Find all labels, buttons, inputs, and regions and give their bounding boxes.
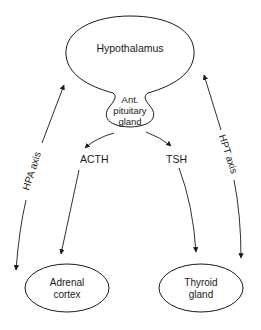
thyroid-label-line1: Thyroid [184, 277, 217, 288]
arrow-pituitary-to-tsh [146, 132, 171, 146]
adrenal-label-line1: Adrenal [50, 277, 84, 288]
hpa-axis-label: HPA axis [20, 150, 43, 191]
adrenal-label-line2: cortex [53, 289, 80, 300]
hypothalamus-label: Hypothalamus [96, 42, 163, 54]
acth-label: ACTH [80, 153, 109, 165]
thyroid-gland-node [159, 264, 243, 312]
hpt-axis-line-upper [204, 75, 221, 130]
pituitary-label-line1: Ant. [122, 94, 139, 105]
pituitary-label-line2: pituitary [113, 105, 147, 116]
hpa-axis-line-lower [16, 200, 26, 270]
tsh-label: TSH [166, 153, 187, 165]
hpt-axis-label: HPT axis [217, 133, 240, 175]
hpa-hpt-axis-diagram: Hypothalamus Ant. pituitary gland ACTH T… [0, 0, 261, 330]
pituitary-label-line3: gland [118, 116, 141, 127]
arrow-tsh-to-thyroid [179, 168, 196, 252]
arrow-pituitary-to-acth [85, 133, 114, 148]
hpa-axis-line-upper [42, 85, 64, 143]
adrenal-cortex-node [25, 264, 109, 312]
thyroid-label-line2: gland [189, 289, 213, 300]
arrow-acth-to-adrenal [61, 170, 79, 254]
hpt-axis-line-lower [234, 180, 241, 258]
